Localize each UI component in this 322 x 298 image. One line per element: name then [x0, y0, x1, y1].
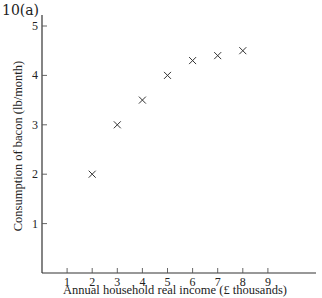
scatter-chart: 12345678912345Annual household real inco… — [0, 0, 322, 298]
y-tick-label: 2 — [32, 167, 38, 181]
data-point-x-marker — [189, 57, 196, 64]
data-point-x-marker — [89, 171, 96, 178]
data-point-x-marker — [214, 52, 221, 59]
data-point-x-marker — [139, 97, 146, 104]
y-tick-label: 5 — [32, 19, 38, 33]
y-tick-label: 4 — [32, 68, 38, 82]
y-tick-label: 3 — [32, 118, 38, 132]
data-point-x-marker — [114, 121, 121, 128]
data-point-x-marker — [239, 47, 246, 54]
data-point-x-marker — [164, 72, 171, 79]
x-axis-title: Annual household real income (£ thousand… — [63, 283, 287, 297]
y-tick-label: 1 — [32, 217, 38, 231]
y-axis-title: Consumption of bacon (lb/month) — [11, 61, 25, 231]
